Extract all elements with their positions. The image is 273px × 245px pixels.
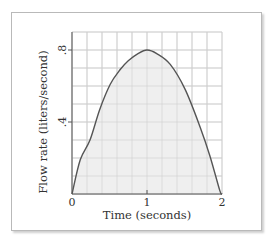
flow-rate-chart: 0 1 2 .8 .4 Time (seconds) Flow rate (li…: [0, 0, 273, 245]
x-tick-label-2: 2: [219, 196, 226, 209]
y-tick-label-04: .4: [56, 117, 69, 128]
x-tick-label-0: 0: [69, 196, 76, 209]
x-axis-label: Time (seconds): [103, 208, 191, 222]
y-tick-label-08: .8: [56, 45, 69, 56]
y-axis-label: Flow rate (liters/second): [36, 50, 50, 193]
